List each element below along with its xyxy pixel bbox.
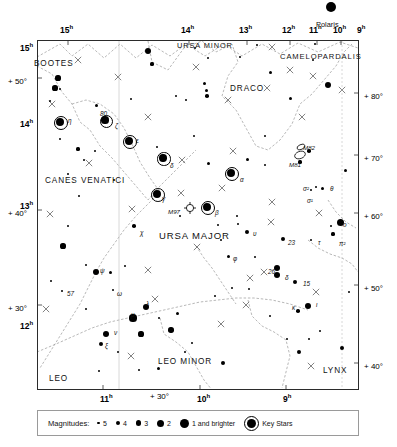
star <box>203 82 206 85</box>
constellation-name-ursa-major: URSA MAJOR <box>159 231 230 241</box>
variable-star-cross-marker <box>47 211 53 217</box>
variable-star-cross-marker <box>218 321 224 327</box>
ra-label-top: 12h <box>282 24 295 34</box>
variable-star-cross-marker <box>128 353 134 359</box>
star <box>205 94 209 98</box>
variable-star-cross-marker <box>152 296 158 302</box>
legend-item-label: 4 <box>123 420 127 427</box>
dec-label-right: + 80° <box>364 93 383 101</box>
constellation-name-camelopardalis: CAMELOPARDALIS <box>280 53 362 61</box>
star <box>60 243 65 248</box>
star <box>52 85 57 90</box>
star <box>145 48 151 54</box>
variable-star-cross-marker <box>219 185 225 191</box>
dec-label-right: + 60° <box>364 213 383 221</box>
variable-star-cross-marker <box>179 157 185 163</box>
variable-star-cross-marker <box>194 244 200 250</box>
star-designation-label: ζ <box>115 123 118 129</box>
variable-star-cross-marker <box>261 269 267 275</box>
star <box>176 312 179 315</box>
legend-item-label: 3 <box>144 420 148 427</box>
dec-label-left: + 50° <box>8 78 27 86</box>
dec-label-right: + 40° <box>364 363 383 371</box>
key-star <box>153 190 161 198</box>
star-designation-label: ω <box>117 291 122 297</box>
variable-star-cross-marker <box>269 199 275 205</box>
star <box>331 232 334 235</box>
nebula-m97-symbol <box>186 204 193 211</box>
star-designation-label: 57 <box>67 291 74 297</box>
hour-unit: h <box>318 24 322 30</box>
key-star-icon <box>244 416 259 431</box>
magnitude-dot-icon <box>180 419 189 428</box>
legend-item-label: 1 and brighter <box>192 420 235 427</box>
star <box>344 169 347 172</box>
variable-star-cross-marker <box>308 363 314 369</box>
star-designation-label: π² <box>339 241 345 247</box>
variable-star-cross-marker <box>287 67 293 73</box>
star-designation-label: ψ <box>100 268 105 274</box>
star-designation-label: σ² <box>303 186 309 192</box>
star-designation-label: δ <box>170 163 174 169</box>
constellation-name-draco: DRACO <box>230 85 264 93</box>
hour-unit: h <box>29 42 33 48</box>
constellation-boundary <box>308 240 358 272</box>
key-star <box>159 154 166 161</box>
hour-unit: h <box>362 24 366 30</box>
variable-star-cross-marker <box>178 190 184 196</box>
legend-title: Magnitudes: <box>48 419 89 428</box>
ra-label-top: 11h <box>309 24 322 34</box>
hour-unit: h <box>206 393 210 399</box>
ra-label-left: 12h <box>20 320 33 330</box>
variable-star-cross-marker <box>316 210 322 216</box>
magnitude-dot-icon <box>116 421 120 425</box>
ra-label-top: 9h <box>357 24 365 34</box>
star-designation-label: δ <box>285 275 289 281</box>
ra-label-bottom: 11h <box>100 393 113 403</box>
legend-item-label: 2 <box>167 420 171 427</box>
deep-sky-object-label: M81 <box>289 162 301 168</box>
legend-item-key-stars: Key Stars <box>244 416 292 431</box>
ra-label-left: 15h <box>20 42 33 52</box>
variable-star-cross-marker <box>145 267 151 273</box>
star <box>138 331 143 336</box>
variable-star-cross-marker <box>86 160 92 166</box>
constellation-name-ursa-minor: URSA MINOR <box>177 42 233 49</box>
star-designation-label: λ <box>146 301 149 307</box>
dec-label-left: + 40° <box>8 210 27 218</box>
dec-label-left: + 30° <box>8 305 27 313</box>
hour-unit: h <box>190 24 194 30</box>
magnitude-dot-icon <box>157 420 164 427</box>
legend-item-magnitude-3: 3 <box>136 420 148 427</box>
legend-items: 54321 and brighter <box>97 419 244 428</box>
star <box>207 162 210 165</box>
magnitude-legend: Magnitudes: 54321 and brighter Key Stars <box>37 410 359 436</box>
star-designation-label: μ <box>131 312 135 318</box>
key-star <box>101 116 108 123</box>
variable-star-cross-marker <box>115 74 121 80</box>
star-designation-label: κ <box>292 305 295 311</box>
magnitude-dot-icon <box>136 420 141 425</box>
variable-star-cross-marker <box>243 302 249 308</box>
constellation-name-leo-minor: LEO MINOR <box>158 358 212 366</box>
star-designation-label: τ <box>318 240 320 246</box>
constellation-boundary <box>248 300 290 388</box>
star <box>245 230 249 234</box>
star <box>109 271 112 274</box>
hour-unit: h <box>69 24 73 30</box>
deep-sky-object-label: M97 <box>168 209 180 215</box>
star-designation-label: α <box>240 177 244 183</box>
star <box>269 71 272 74</box>
star-designation-label: φ <box>233 256 237 262</box>
ra-label-bottom: 10h <box>197 393 210 403</box>
star-designation-label: χ <box>140 230 144 236</box>
star-designation-label: σ¹ <box>307 198 313 204</box>
variable-star-cross-marker <box>129 206 135 212</box>
star <box>289 97 292 100</box>
star-designation-label: 26 <box>268 269 275 275</box>
star-designation-label: θ <box>330 186 333 192</box>
legend-item-label: 5 <box>103 420 107 427</box>
deep-sky-object-label: M82 <box>303 145 315 151</box>
variable-star-cross-marker <box>268 219 274 225</box>
variable-star-cross-marker <box>75 57 81 63</box>
